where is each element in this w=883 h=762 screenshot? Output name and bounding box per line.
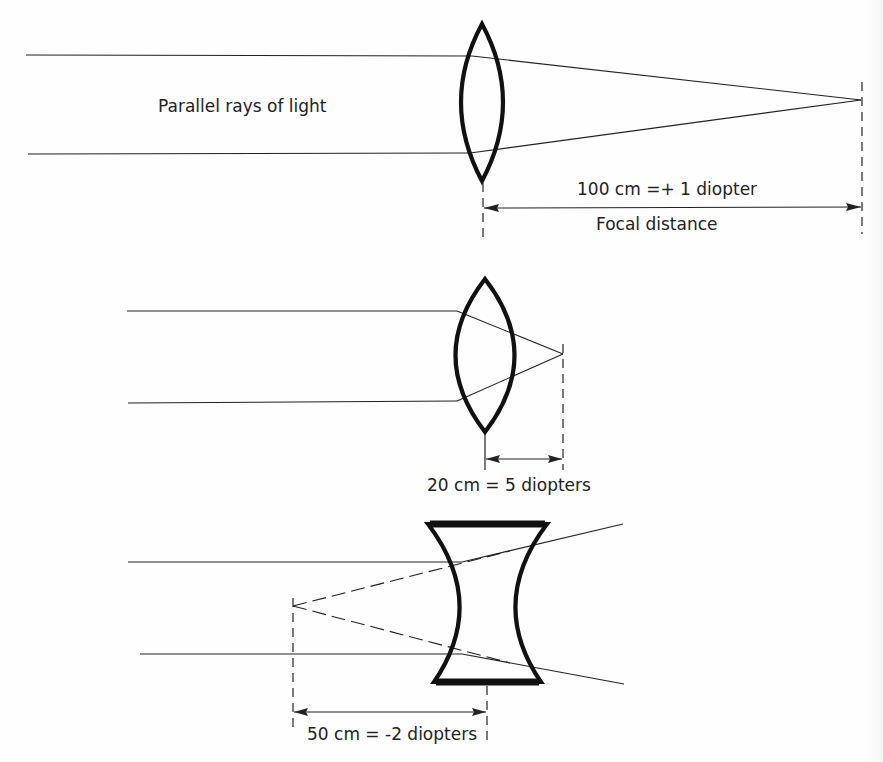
virtual-ray-top — [293, 551, 510, 606]
measure-label-50cm: 50 cm = -2 diopters — [307, 724, 477, 744]
parallel-rays-label: Parallel rays of light — [158, 96, 327, 116]
arrowhead-left — [294, 708, 308, 716]
incident-ray-bottom — [128, 401, 457, 403]
arrowhead-left — [484, 204, 499, 212]
lens-diagram: Parallel rays of light 100 cm =+ 1 diopt… — [0, 0, 883, 762]
focal-distance-caption: Focal distance — [596, 214, 718, 234]
refracted-ray-top — [472, 56, 861, 100]
arrowhead-left — [486, 455, 500, 463]
diagram-canvas: Parallel rays of light 100 cm =+ 1 diopt… — [0, 0, 883, 762]
arrowhead-right — [548, 455, 562, 463]
incident-ray-top — [26, 55, 472, 56]
convex-lens-weak — [461, 24, 503, 181]
arrowhead-right — [472, 708, 486, 716]
measure-label-100cm: 100 cm =+ 1 diopter — [577, 179, 757, 199]
incident-ray-bottom — [28, 153, 470, 154]
measure-label-20cm: 20 cm = 5 diopters — [427, 475, 591, 495]
panel-concave: 50 cm = -2 diopters — [128, 524, 624, 744]
refracted-ray-bottom — [470, 100, 861, 153]
panel-convex-strong: 20 cm = 5 diopters — [127, 279, 591, 495]
arrowhead-right — [846, 203, 861, 211]
focal-distance-dimension — [484, 207, 861, 208]
panel-convex-weak: Parallel rays of light 100 cm =+ 1 diopt… — [26, 24, 862, 238]
convex-lens-strong — [456, 279, 515, 432]
